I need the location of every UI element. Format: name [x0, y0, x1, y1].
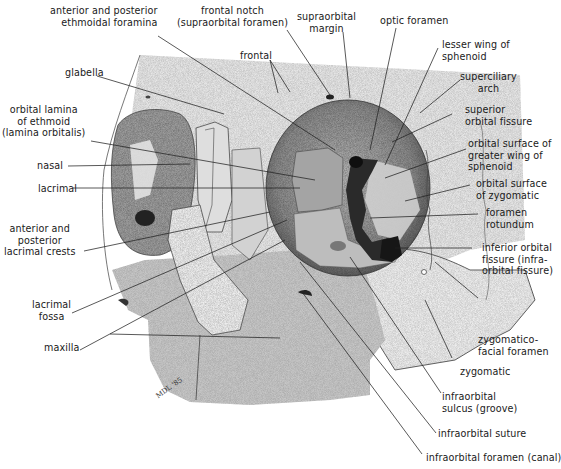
label-inferior-orbital-fissure: inferior orbital fissure (infra- orbital…: [482, 242, 553, 277]
label-lacrimal-fossa: lacrimal fossa: [32, 299, 71, 322]
label-zygomatic-orbital: orbital surface of zygomatic: [476, 178, 547, 201]
label-infraorbital-sulcus: infraorbital sulcus (groove): [442, 391, 517, 414]
orbital-lamina-region: [292, 148, 343, 212]
label-glabella: glabella: [65, 67, 104, 79]
label-infraorbital-suture: infraorbital suture: [438, 428, 526, 440]
label-supraorbital-margin: supraorbital margin: [297, 11, 356, 34]
label-frontal: frontal: [240, 50, 272, 62]
label-lesser-wing: lesser wing of sphenoid: [442, 39, 510, 62]
label-superciliary-arch: superciliary arch: [460, 71, 517, 94]
zygomaticofacial-foramen-mark: [422, 270, 427, 275]
label-lacrimal-crests: anterior and posterior lacrimal crests: [4, 223, 76, 258]
label-maxilla: maxilla: [44, 342, 79, 354]
label-zygomaticofacial-foramen: zygomatico- facial foramen: [478, 334, 549, 357]
label-greater-wing: orbital surface of greater wing of sphen…: [468, 138, 551, 173]
label-foramen-rotundum: foramen rotundum: [486, 207, 534, 230]
label-ethmoidal-foramina: anterior and posterior ethmoidal foramin…: [50, 5, 157, 28]
supraorbital-notch: [326, 95, 334, 100]
optic-foramen: [349, 156, 363, 168]
label-lacrimal: lacrimal: [38, 183, 77, 195]
label-frontal-notch: frontal notch (supraorbital foramen): [177, 5, 288, 28]
left-lacrimal-fossa: [135, 210, 155, 226]
label-infraorbital-foramen: infraorbital foramen (canal): [426, 452, 561, 464]
label-orbital-lamina: orbital lamina of ethmoid (lamina orbita…: [2, 104, 85, 139]
label-zygomatic: zygomatic: [460, 366, 511, 378]
label-superior-orbital-fissure: superior orbital fissure: [465, 104, 532, 127]
label-nasal: nasal: [37, 160, 63, 172]
label-optic-foramen: optic foramen: [380, 15, 448, 27]
